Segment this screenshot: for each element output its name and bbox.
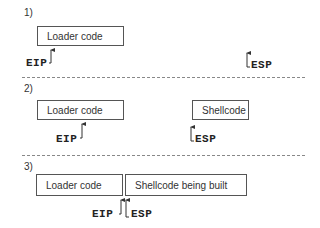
esp-arrow-icon (247, 53, 250, 67)
eip-arrow-icon (119, 200, 121, 214)
eip-arrow-icon (80, 124, 82, 138)
pointer-arrows (0, 0, 320, 228)
esp-arrow-icon (126, 200, 129, 217)
eip-arrow-icon (49, 50, 51, 63)
esp-arrow-icon (191, 127, 194, 141)
